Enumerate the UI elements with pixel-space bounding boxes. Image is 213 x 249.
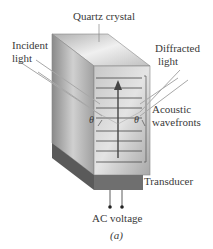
diffracted-light-label-1: Diffracted (155, 42, 200, 54)
transducer (94, 175, 143, 190)
transducer-label: Transducer (144, 175, 193, 187)
theta-left-label: θ (89, 114, 94, 126)
acoustic-wavefronts-label-2: wavefronts (152, 116, 201, 128)
theta-right-label: θ (134, 114, 139, 126)
ac-voltage-label: AC voltage (92, 212, 142, 224)
incident-light-label-2: light (12, 52, 32, 64)
terminal-right (120, 205, 124, 209)
diffracted-light-label-2: light (158, 55, 178, 67)
terminal-left (108, 205, 112, 209)
crystal-front-face (94, 66, 150, 175)
figure-caption: (a) (110, 229, 123, 241)
incident-light-label-1: Incident (12, 39, 48, 51)
quartz-crystal-label: Quartz crystal (73, 10, 135, 22)
acoustic-wavefronts-label-1: Acoustic (152, 103, 191, 115)
